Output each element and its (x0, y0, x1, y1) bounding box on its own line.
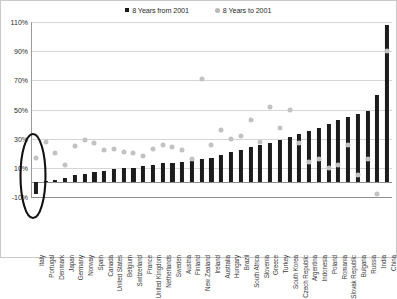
scatter-point (258, 139, 263, 144)
scatter-point (287, 107, 292, 112)
bar (131, 168, 135, 183)
chart-column (324, 22, 334, 197)
scatter-point (316, 157, 321, 162)
chart-column (363, 22, 373, 197)
x-axis-tick-label: Italy (38, 244, 45, 255)
chart-column (304, 22, 314, 197)
legend-item-bars: 8 Years from 2001 (125, 6, 189, 15)
bar (92, 172, 96, 182)
x-axis-tick-label: Finland (194, 235, 201, 255)
bar (53, 180, 57, 183)
chart-column (70, 22, 80, 197)
x-axis-tick-label: India (380, 242, 387, 255)
chart-column (129, 22, 139, 197)
scatter-point (111, 146, 116, 151)
x-axis-tick-label: Brazil (243, 240, 250, 255)
bar (336, 120, 340, 183)
bar (180, 162, 184, 182)
chart-column (31, 22, 41, 197)
chart-column (187, 22, 197, 197)
bar (327, 124, 331, 182)
x-axis-tick-label: South Africa (253, 222, 260, 255)
chart-column (343, 22, 353, 197)
chart-column (382, 22, 392, 197)
x-axis-tick-label: Belgium (126, 233, 133, 255)
plot-area (31, 22, 392, 197)
bar (44, 181, 48, 182)
x-axis-tick-label: Slovak Republic (350, 211, 357, 255)
y-axis-tick-label: 110% (0, 19, 28, 26)
bar (346, 117, 350, 183)
scatter-point (170, 145, 175, 150)
x-axis-tick-label: Austria (185, 236, 192, 255)
bar (268, 143, 272, 182)
chart-column (226, 22, 236, 197)
bar (375, 95, 379, 183)
legend-item-dots: 8 Years to 2001 (215, 6, 271, 15)
y-axis-tick-label: 10% (0, 164, 28, 171)
scatter-point (180, 148, 185, 153)
bar (209, 158, 213, 183)
bar (112, 169, 116, 182)
chart-column (80, 22, 90, 197)
chart-column (246, 22, 256, 197)
x-axis-tick-label: Netherlands (165, 222, 172, 255)
scatter-point (238, 133, 243, 138)
chart-column (236, 22, 246, 197)
chart-column (60, 22, 70, 197)
bar (122, 168, 126, 183)
x-axis-tick-label: Greece (272, 235, 279, 255)
scatter-point (268, 104, 273, 109)
scatter-point (336, 162, 341, 167)
scatter-point (150, 146, 155, 151)
scatter-point (365, 157, 370, 162)
x-axis-tick-label: Poland (331, 236, 338, 255)
chart-column (265, 22, 275, 197)
x-axis-tick-label: New Zealand (204, 219, 211, 255)
chart-column (51, 22, 61, 197)
x-axis-tick-label: Norway (87, 234, 94, 255)
y-axis-tick-label: 50% (0, 106, 28, 113)
scatter-point (92, 141, 97, 146)
x-axis-tick-label: Bulgaria (360, 233, 367, 255)
chart-column (353, 22, 363, 197)
bar (34, 182, 38, 194)
scatter-point (141, 154, 146, 159)
chart-column (168, 22, 178, 197)
bar (102, 171, 106, 183)
bar (151, 165, 155, 183)
scatter-point (131, 151, 136, 156)
scatter-point (102, 148, 107, 153)
scatter-point (160, 142, 165, 147)
chart-column (158, 22, 168, 197)
bar (190, 161, 194, 183)
scatter-point (209, 142, 214, 147)
chart-column (138, 22, 148, 197)
scatter-point (346, 142, 351, 147)
x-axis-tick-label: Czech Republic (302, 212, 309, 255)
x-axis-tick-label: Canada (107, 234, 114, 255)
x-axis-tick-label: Ireland (214, 236, 221, 255)
x-axis-labels: ItalyPortugalDenmarkJapanGermanyNorwaySp… (31, 199, 392, 257)
scatter-point (82, 138, 87, 143)
gridline (31, 197, 392, 198)
scatter-point (277, 126, 282, 131)
x-axis-tick-label: South Korea (292, 221, 299, 255)
scatter-point (219, 127, 224, 132)
bar (258, 145, 262, 183)
y-axis-tick-label: 90% (0, 48, 28, 55)
scatter-point (121, 149, 126, 154)
bar (170, 163, 174, 182)
chart-column (177, 22, 187, 197)
y-axis-tick-label: 30% (0, 135, 28, 142)
chart-column (216, 22, 226, 197)
bar (278, 140, 282, 182)
bar (288, 137, 292, 182)
chart-column (372, 22, 382, 197)
chart-column (333, 22, 343, 197)
x-axis-tick-label: Australia (224, 231, 231, 255)
y-axis-tick-label: -10% (0, 194, 28, 201)
scatter-point (326, 165, 331, 170)
bar (200, 159, 204, 182)
